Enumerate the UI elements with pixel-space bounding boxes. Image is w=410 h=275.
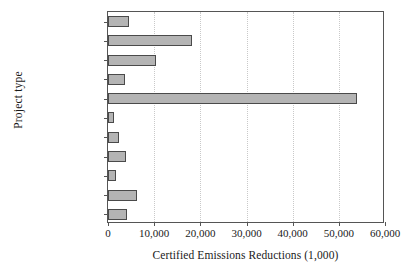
bar-agriculture (108, 209, 127, 220)
bar-row: Hydro (108, 70, 383, 89)
bar-row: Agriculture (108, 205, 383, 224)
x-tick-label: 60,000 (370, 227, 400, 239)
bar-landfill-gas (108, 55, 156, 66)
bar-n2o (108, 35, 192, 46)
x-tick-label: 10,000 (139, 227, 169, 239)
bar-row: Geothermal (108, 108, 383, 127)
x-tick-mark (154, 222, 155, 226)
bar-row: N2O (108, 31, 383, 50)
bar-row: HFCs (108, 89, 383, 108)
bar-geothermal (108, 112, 114, 123)
bar-row: Cement (108, 166, 383, 185)
y-tick-mark (104, 79, 108, 80)
x-tick-label: 30,000 (231, 227, 261, 239)
y-tick-mark (104, 214, 108, 215)
x-tick-label: 20,000 (185, 227, 215, 239)
bar-ee-industry (108, 151, 126, 162)
y-axis-title: Project type (12, 40, 24, 160)
y-tick-mark (104, 22, 108, 23)
bar-row: Biomass energy (108, 185, 383, 204)
x-tick-label: 40,000 (278, 227, 308, 239)
x-tick-mark (339, 222, 340, 226)
bars-group: WindN2OLandfill gasHydroHFCsGeothermalFu… (108, 12, 383, 222)
y-tick-mark (104, 176, 108, 177)
bar-chart-figure: Project type WindN2OLandfill gasHydroHFC… (0, 0, 410, 275)
bar-wind (108, 16, 129, 27)
bar-row: Fugitive (108, 128, 383, 147)
x-tick-mark (293, 222, 294, 226)
bar-hfcs (108, 93, 357, 104)
x-tick-mark (385, 222, 386, 226)
x-tick-label: 0 (105, 227, 111, 239)
bar-hydro (108, 74, 125, 85)
bar-fugitive (108, 132, 119, 143)
bar-row: Wind (108, 12, 383, 31)
y-tick-mark (104, 41, 108, 42)
y-tick-mark (104, 137, 108, 138)
bar-row: EE industry (108, 147, 383, 166)
y-tick-mark (104, 118, 108, 119)
y-tick-mark (104, 99, 108, 100)
y-tick-mark (104, 60, 108, 61)
bar-biomass-energy (108, 190, 137, 201)
x-tick-mark (247, 222, 248, 226)
x-tick-label: 50,000 (324, 227, 354, 239)
x-tick-mark (200, 222, 201, 226)
plot-area: WindN2OLandfill gasHydroHFCsGeothermalFu… (107, 11, 384, 223)
x-tick-mark (108, 222, 109, 226)
x-axis-title: Certified Emissions Reductions (1,000) (107, 249, 384, 261)
y-tick-mark (104, 195, 108, 196)
bar-row: Landfill gas (108, 51, 383, 70)
y-tick-mark (104, 157, 108, 158)
bar-cement (108, 170, 116, 181)
